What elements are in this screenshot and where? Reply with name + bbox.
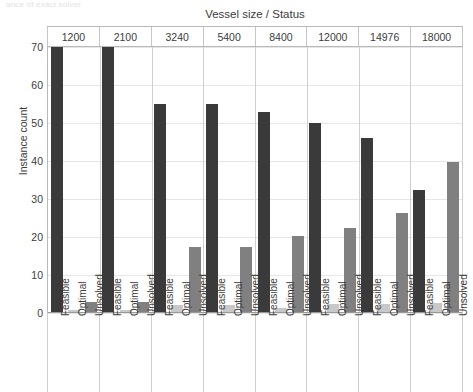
- x-label-group: FeasibleOptimalUnsolved: [152, 313, 204, 392]
- bar-group: [255, 47, 307, 313]
- chart-title: Vessel size / Status: [47, 8, 463, 20]
- bar-feasible[interactable]: [102, 47, 114, 313]
- x-tick-label-optimal: Optimal: [379, 313, 391, 392]
- y-tick-label: 60: [31, 79, 43, 91]
- x-label-group: FeasibleOptimalUnsolved: [204, 313, 256, 392]
- x-tick-label-text: Feasible: [372, 278, 383, 316]
- x-tick-label-text: Optimal: [181, 282, 192, 316]
- x-tick-label-text: Optimal: [77, 282, 88, 316]
- y-tick-label: 20: [31, 231, 43, 243]
- bar-group: [410, 47, 462, 313]
- plot-area: 010203040506070: [47, 47, 463, 313]
- bar-group: [100, 47, 152, 313]
- x-tick-label-text: Unsolved: [198, 274, 209, 316]
- x-tick-label-text: Feasible: [268, 278, 279, 316]
- x-tick-label-text: Unsolved: [406, 274, 417, 316]
- x-axis-tick-labels: FeasibleOptimalUnsolvedFeasibleOptimalUn…: [47, 313, 463, 392]
- bar-chart-figure: Vessel size / Status 1200210032405400840…: [0, 0, 473, 392]
- bar-group: [359, 47, 411, 313]
- y-tick-label: 70: [31, 41, 43, 53]
- bar-group: [203, 47, 255, 313]
- y-tick-label: 40: [31, 155, 43, 167]
- x-tick-label-unsolved: Unsolved: [396, 313, 408, 392]
- x-tick-label-unsolved: Unsolved: [344, 313, 356, 392]
- x-tick-label-feasible: Feasible: [154, 313, 166, 392]
- x-tick-label-unsolved: Unsolved: [188, 313, 200, 392]
- x-tick-label-text: Unsolved: [458, 274, 469, 316]
- x-tick-label-feasible: Feasible: [102, 313, 114, 392]
- vessel-size-header-cell: 2100: [100, 27, 152, 46]
- bar-group: [307, 47, 359, 313]
- x-tick-label-text: Unsolved: [146, 274, 157, 316]
- x-tick-label-unsolved: Unsolved: [136, 313, 148, 392]
- vessel-size-header-cell: 8400: [256, 27, 308, 46]
- bar-group: [152, 47, 204, 313]
- x-tick-label-text: Optimal: [285, 282, 296, 316]
- x-tick-label-text: Feasible: [424, 278, 435, 316]
- x-tick-label-text: Unsolved: [302, 274, 313, 316]
- x-tick-label-feasible: Feasible: [206, 313, 218, 392]
- x-tick-label-optimal: Optimal: [119, 313, 131, 392]
- x-label-group: FeasibleOptimalUnsolved: [359, 313, 411, 392]
- x-tick-label-optimal: Optimal: [171, 313, 183, 392]
- vessel-size-header-cell: 18000: [411, 27, 463, 46]
- vessel-size-header-cell: 14976: [359, 27, 411, 46]
- x-label-group: FeasibleOptimalUnsolved: [256, 313, 308, 392]
- x-tick-label-unsolved: Unsolved: [448, 313, 460, 392]
- x-tick-label-text: Feasible: [216, 278, 227, 316]
- x-tick-label-text: Optimal: [441, 282, 452, 316]
- y-tick-label: 30: [31, 193, 43, 205]
- x-tick-label-feasible: Feasible: [362, 313, 374, 392]
- x-tick-label-optimal: Optimal: [223, 313, 235, 392]
- y-tick-label: 10: [31, 269, 43, 281]
- x-tick-label-optimal: Optimal: [327, 313, 339, 392]
- x-label-group: FeasibleOptimalUnsolved: [100, 313, 152, 392]
- x-label-group: FeasibleOptimalUnsolved: [307, 313, 359, 392]
- x-tick-label-text: Optimal: [337, 282, 348, 316]
- x-label-group: FeasibleOptimalUnsolved: [47, 313, 100, 392]
- bar-feasible[interactable]: [51, 47, 63, 313]
- x-tick-label-unsolved: Unsolved: [292, 313, 304, 392]
- x-tick-label-text: Feasible: [60, 278, 71, 316]
- y-axis-title: Instance count: [17, 71, 29, 211]
- x-tick-label-text: Unsolved: [250, 274, 261, 316]
- x-tick-label-feasible: Feasible: [414, 313, 426, 392]
- x-tick-label-text: Optimal: [233, 282, 244, 316]
- vessel-size-header-cell: 3240: [152, 27, 204, 46]
- bar-group: [48, 47, 100, 313]
- x-tick-label-optimal: Optimal: [431, 313, 443, 392]
- vessel-size-header-row: 12002100324054008400120001497618000: [47, 26, 463, 47]
- x-tick-label-text: Unsolved: [354, 274, 365, 316]
- x-tick-label-text: Feasible: [112, 278, 123, 316]
- x-tick-label-unsolved: Unsolved: [240, 313, 252, 392]
- vessel-size-header-cell: 1200: [47, 27, 100, 46]
- x-tick-label-unsolved: Unsolved: [84, 313, 96, 392]
- x-tick-label-feasible: Feasible: [258, 313, 270, 392]
- x-tick-label-feasible: Feasible: [310, 313, 322, 392]
- x-tick-label-optimal: Optimal: [67, 313, 79, 392]
- x-tick-label-text: Feasible: [164, 278, 175, 316]
- bars-layer: [48, 47, 462, 313]
- x-tick-label-text: Optimal: [389, 282, 400, 316]
- x-tick-label-text: Optimal: [129, 282, 140, 316]
- x-label-group: FeasibleOptimalUnsolved: [411, 313, 463, 392]
- x-tick-label-text: Feasible: [320, 278, 331, 316]
- vessel-size-header-cell: 12000: [307, 27, 359, 46]
- x-tick-label-feasible: Feasible: [50, 313, 62, 392]
- y-tick-label: 50: [31, 117, 43, 129]
- y-tick-label: 0: [37, 307, 43, 319]
- vessel-size-header-cell: 5400: [204, 27, 256, 46]
- x-tick-label-text: Unsolved: [94, 274, 105, 316]
- x-tick-label-optimal: Optimal: [275, 313, 287, 392]
